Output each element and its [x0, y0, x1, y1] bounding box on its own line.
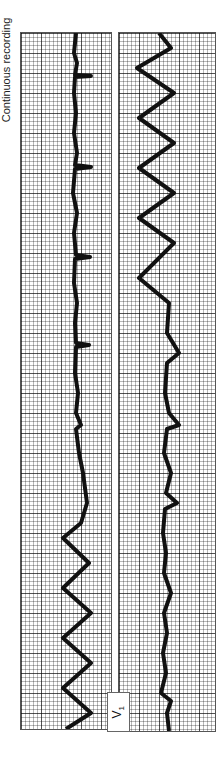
ecg-strip-right [118, 32, 216, 732]
lead-label-v1: V1 [107, 692, 130, 732]
ecg-trace-left [21, 33, 111, 729]
lead-letter: V [110, 710, 124, 718]
caption-continuous-recording: Continuous recording [0, 0, 16, 140]
ecg-trace-right [119, 33, 215, 731]
lead-subscript: 1 [118, 706, 127, 710]
ecg-strip-left [20, 32, 112, 730]
